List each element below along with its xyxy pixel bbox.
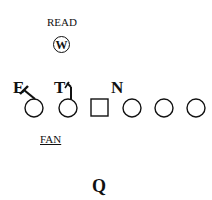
lineman-circle-icon bbox=[187, 99, 205, 117]
lineman-circle-icon bbox=[59, 99, 77, 117]
quarterback-label: Q bbox=[92, 177, 106, 195]
center-square-icon bbox=[91, 99, 108, 116]
play-diagram-graphics bbox=[0, 0, 212, 200]
lineman-circle-icon bbox=[155, 99, 173, 117]
fan-label: FAN bbox=[40, 134, 61, 145]
tackle-block-arrow-icon bbox=[65, 82, 71, 99]
lineman-circle-icon bbox=[25, 99, 43, 117]
end-block-arrow-icon bbox=[20, 86, 35, 99]
lineman-circle-icon bbox=[123, 99, 141, 117]
